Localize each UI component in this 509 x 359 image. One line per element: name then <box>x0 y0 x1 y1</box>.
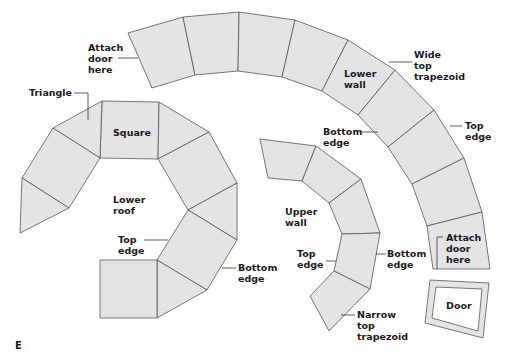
label-bottom-edge-roof: Bottom edge <box>238 262 277 284</box>
label-attach-door-bottom: Attach door here <box>446 232 481 265</box>
label-narrow-top-trapezoid: Narrow top trapezoid <box>357 309 408 342</box>
label-square: Square <box>113 127 151 138</box>
label-wide-top-trapezoid: Wide top trapezoid <box>414 49 465 82</box>
label-door: Door <box>446 300 472 311</box>
label-top-edge-roof: Top edge <box>118 234 145 256</box>
upper-wall-arc <box>260 139 380 331</box>
lower-roof-panel-10 <box>100 260 157 318</box>
label-bottom-edge-upper-wall: Bottom edge <box>387 248 426 270</box>
figure-letter: E <box>15 340 22 351</box>
label-attach-door-top: Attach door here <box>88 42 123 75</box>
label-bottom-edge-upper: Bottom edge <box>323 126 362 148</box>
label-lower-roof: Lower roof <box>113 194 146 216</box>
label-triangle: Triangle <box>29 87 72 98</box>
label-lower-wall: Lower wall <box>344 68 377 90</box>
label-top-edge-upper-wall: Top edge <box>297 248 324 270</box>
label-top-edge-right: Top edge <box>465 120 492 142</box>
label-upper-wall: Upper wall <box>285 206 317 228</box>
